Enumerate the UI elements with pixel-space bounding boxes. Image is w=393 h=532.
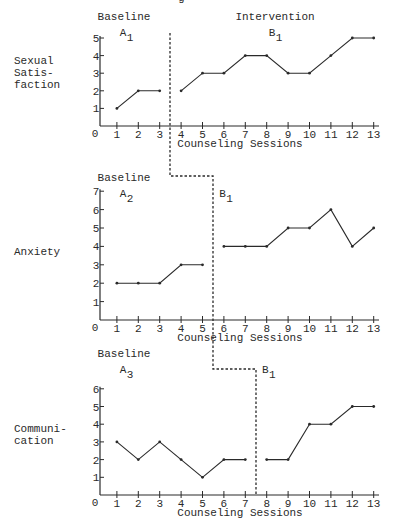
data-point xyxy=(180,458,183,461)
phase-letter-label: A xyxy=(120,188,127,200)
data-point xyxy=(308,227,311,230)
series-line-intervention xyxy=(267,407,374,460)
data-point xyxy=(244,54,247,57)
y-tick-label: 4 xyxy=(93,241,100,253)
x-tick-label: 3 xyxy=(156,129,163,141)
data-point xyxy=(372,227,375,230)
data-point xyxy=(265,245,268,248)
data-point xyxy=(330,54,333,57)
phase-letter-label: B xyxy=(262,364,269,376)
y-tick-label: 5 xyxy=(93,223,100,235)
y-tick-label: 7 xyxy=(93,186,100,198)
x-tick-label: 12 xyxy=(346,129,359,141)
y-tick-label: 4 xyxy=(93,51,100,63)
phase-name-label: Baseline xyxy=(98,172,151,184)
data-point xyxy=(158,282,161,285)
y-tick-label: 3 xyxy=(93,68,100,80)
x-tick-label: 12 xyxy=(346,323,359,335)
data-point xyxy=(137,458,140,461)
y-tick-label: 1 xyxy=(93,297,100,309)
data-point xyxy=(287,458,290,461)
data-point xyxy=(372,37,375,40)
data-point xyxy=(116,282,119,285)
phase-subscript-label: 3 xyxy=(127,369,134,381)
x-tick-label: 10 xyxy=(303,129,316,141)
data-point xyxy=(308,423,311,426)
data-point xyxy=(158,441,161,444)
data-point xyxy=(287,72,290,75)
y-tick-label: 2 xyxy=(93,86,100,98)
data-point xyxy=(137,282,140,285)
phase-letter-label: A xyxy=(120,364,127,376)
origin-label: 0 xyxy=(92,497,99,509)
y-tick-label: 5 xyxy=(93,33,100,45)
x-axis-label: Counseling Sessions xyxy=(177,507,302,519)
data-point xyxy=(116,107,119,110)
data-point xyxy=(351,37,354,40)
phase-letter-label: A xyxy=(120,27,127,39)
phase-name-label: Baseline xyxy=(98,11,151,23)
y-tick-label: 3 xyxy=(93,437,100,449)
x-axis-label: Counseling Sessions xyxy=(177,332,302,344)
chart-2: 1234567012345678910111213Counseling Sess… xyxy=(92,172,381,344)
data-point xyxy=(372,405,375,408)
x-tick-label: 12 xyxy=(346,498,359,510)
chart-3: 123456012345678910111213Counseling Sessi… xyxy=(92,348,381,519)
data-point xyxy=(180,263,183,266)
x-tick-label: 11 xyxy=(324,498,338,510)
x-axis-label: Counseling Sessions xyxy=(177,138,302,150)
data-point xyxy=(265,54,268,57)
data-point xyxy=(116,441,119,444)
phase-letter-label: B xyxy=(219,188,226,200)
origin-label: 0 xyxy=(92,322,99,334)
data-point xyxy=(287,227,290,230)
y-tick-label: 3 xyxy=(93,260,100,272)
x-tick-label: 1 xyxy=(114,498,121,510)
y-tick-label: 2 xyxy=(93,455,100,467)
phase-subscript-label: 1 xyxy=(269,369,276,381)
data-point xyxy=(223,458,226,461)
x-tick-label: 2 xyxy=(135,323,142,335)
data-point xyxy=(201,263,204,266)
phase-name-label: Baseline xyxy=(98,348,151,360)
phase-letter-label: B xyxy=(269,27,276,39)
x-tick-label: 2 xyxy=(135,498,142,510)
series-line-baseline xyxy=(117,91,160,109)
x-tick-label: 13 xyxy=(367,129,380,141)
origin-label: 0 xyxy=(92,128,99,140)
y-tick-label: 2 xyxy=(93,278,100,290)
x-tick-label: 1 xyxy=(114,129,121,141)
series-line-intervention xyxy=(181,38,374,91)
data-point xyxy=(201,72,204,75)
y-tick-label: 5 xyxy=(93,402,100,414)
phase-subscript-label: 1 xyxy=(127,32,134,44)
data-point xyxy=(308,72,311,75)
data-point xyxy=(244,458,247,461)
charts-canvas: 12345012345678910111213Counseling Sessio… xyxy=(0,0,393,532)
y-tick-label: 4 xyxy=(93,419,100,431)
y-tick-label: 1 xyxy=(93,472,100,484)
data-point xyxy=(137,89,140,92)
data-point xyxy=(351,405,354,408)
x-tick-label: 3 xyxy=(156,323,163,335)
x-tick-label: 11 xyxy=(324,129,338,141)
data-point xyxy=(158,89,161,92)
data-point xyxy=(265,458,268,461)
x-tick-label: 3 xyxy=(156,498,163,510)
phase-subscript-label: 1 xyxy=(276,32,283,44)
data-point xyxy=(330,208,333,211)
y-tick-label: 6 xyxy=(93,205,100,217)
x-tick-label: 10 xyxy=(303,323,316,335)
phase-subscript-label: 1 xyxy=(226,193,233,205)
y-tick-label: 6 xyxy=(93,384,100,396)
x-tick-label: 13 xyxy=(367,323,380,335)
phase-name-label: Intervention xyxy=(235,11,314,23)
data-point xyxy=(223,72,226,75)
data-point xyxy=(330,423,333,426)
x-tick-label: 2 xyxy=(135,129,142,141)
data-point xyxy=(351,245,354,248)
series-line-baseline xyxy=(117,265,203,283)
data-point xyxy=(244,245,247,248)
x-tick-label: 13 xyxy=(367,498,380,510)
phase-subscript-label: 2 xyxy=(127,193,134,205)
